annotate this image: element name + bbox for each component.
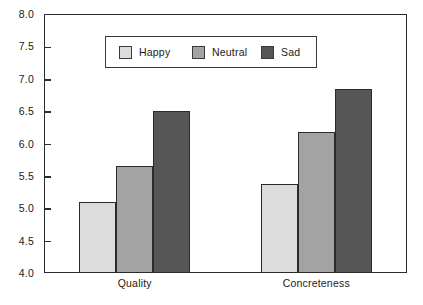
legend-label: Happy	[139, 47, 170, 58]
legend-entry-sad: Sad	[261, 46, 300, 59]
bar-chart: 8.07.57.06.56.05.55.04.54.0 QualityConcr…	[0, 0, 423, 305]
y-axis-tick-label: 4.5	[19, 235, 34, 246]
bar-neutral-concreteness	[298, 132, 335, 273]
y-axis-tick-label: 5.0	[19, 203, 34, 214]
legend-entry-neutral: Neutral	[192, 46, 247, 59]
bar-neutral-quality	[116, 166, 153, 273]
x-axis: QualityConcreteness	[44, 278, 407, 300]
y-axis: 8.07.57.06.56.05.55.04.54.0	[0, 0, 40, 305]
legend-swatch-happy	[119, 46, 132, 59]
legend-label: Neutral	[212, 47, 247, 58]
y-axis-tick-label: 6.5	[19, 106, 34, 117]
y-axis-tick-label: 5.5	[19, 171, 34, 182]
y-axis-tick-label: 6.0	[19, 138, 34, 149]
legend-entry-happy: Happy	[119, 46, 170, 59]
bar-sad-quality	[153, 111, 190, 273]
legend-swatch-sad	[261, 46, 274, 59]
legend-swatch-neutral	[192, 46, 205, 59]
bar-sad-concreteness	[335, 89, 372, 273]
y-axis-tick-label: 8.0	[19, 9, 34, 20]
y-axis-tick-label: 7.0	[19, 74, 34, 85]
y-axis-tick-label: 7.5	[19, 41, 34, 52]
bar-happy-quality	[79, 202, 116, 273]
x-axis-tick-label: Quality	[118, 278, 152, 289]
legend-label: Sad	[281, 47, 300, 58]
bar-happy-concreteness	[261, 184, 298, 273]
x-axis-tick-label: Concreteness	[283, 278, 350, 289]
y-axis-tick-label: 4.0	[19, 268, 34, 279]
chart-legend: HappyNeutralSad	[105, 36, 317, 68]
